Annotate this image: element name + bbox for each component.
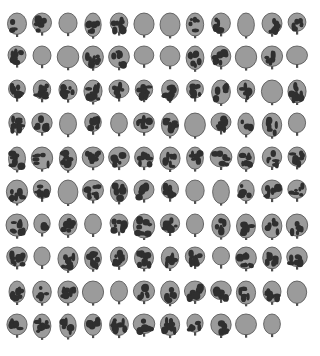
- leaf-icon: [183, 310, 207, 342]
- leaf-icon: [234, 42, 258, 74]
- leaf-icon: [30, 109, 54, 141]
- leaf-icon: [30, 42, 54, 74]
- leaf-icon: [234, 176, 258, 208]
- leaf-icon: [285, 9, 309, 41]
- leaf-cell: [55, 8, 81, 42]
- leaf-cell: [157, 310, 183, 344]
- leaf-cell: [183, 75, 209, 109]
- leaf-cell: [30, 176, 56, 210]
- leaf-icon: [260, 277, 284, 309]
- leaf-icon: [30, 9, 54, 41]
- leaf-cell: [157, 276, 183, 310]
- leaf-icon: [30, 243, 54, 275]
- leaf-icon: [209, 143, 233, 175]
- leaf-icon: [158, 243, 182, 275]
- leaf-icon: [285, 243, 309, 275]
- leaf-cell: [285, 75, 311, 109]
- leaf-icon: [56, 143, 80, 175]
- leaf-cell: [132, 310, 158, 344]
- leaf-icon: [234, 76, 258, 108]
- leaf-icon: [30, 277, 54, 309]
- leaf-cell: [157, 209, 183, 243]
- leaf-icon: [209, 243, 233, 275]
- leaf-cell: [30, 209, 56, 243]
- leaf-cell: [285, 8, 311, 42]
- leaf-cell: [4, 209, 30, 243]
- leaf-cell: [132, 142, 158, 176]
- leaf-cell: [81, 75, 107, 109]
- leaf-icon: [158, 42, 182, 74]
- leaf-icon: [107, 243, 131, 275]
- leaf-icon: [183, 243, 207, 275]
- leaf-icon: [81, 143, 105, 175]
- leaf-icon: [234, 210, 258, 242]
- leaf-cell: [285, 276, 311, 310]
- leaf-cell: [234, 8, 260, 42]
- leaf-cell: [4, 109, 30, 143]
- leaf-cell: [234, 209, 260, 243]
- leaf-icon: [81, 76, 105, 108]
- leaf-icon: [285, 277, 309, 309]
- leaf-cell: [234, 176, 260, 210]
- leaf-cell: [4, 243, 30, 277]
- leaf-cell: [208, 42, 234, 76]
- leaf-cell: [55, 310, 81, 344]
- leaf-icon: [209, 42, 233, 74]
- leaf-icon: [81, 243, 105, 275]
- leaf-cell: [30, 142, 56, 176]
- leaf-cell: [106, 8, 132, 42]
- leaf-cell: [285, 109, 311, 143]
- leaf-cell: [259, 75, 285, 109]
- leaf-icon: [56, 76, 80, 108]
- leaf-icon: [285, 109, 309, 141]
- leaf-cell: [208, 8, 234, 42]
- leaf-cell: [183, 276, 209, 310]
- leaf-icon: [260, 76, 284, 108]
- leaf-icon: [107, 310, 131, 342]
- leaf-icon: [285, 143, 309, 175]
- leaf-cell: [106, 209, 132, 243]
- leaf-icon: [107, 176, 131, 208]
- leaf-icon: [260, 176, 284, 208]
- leaf-cell: [183, 243, 209, 277]
- leaf-cell: [157, 8, 183, 42]
- leaf-icon: [81, 210, 105, 242]
- leaf-icon: [158, 9, 182, 41]
- leaf-icon: [132, 109, 156, 141]
- leaf-cell: [259, 243, 285, 277]
- leaf-icon: [132, 310, 156, 342]
- leaf-cell: [81, 176, 107, 210]
- leaf-icon: [260, 9, 284, 41]
- leaf-icon: [260, 310, 284, 342]
- leaf-icon: [30, 76, 54, 108]
- leaf-icon: [285, 76, 309, 108]
- leaf-cell: [30, 109, 56, 143]
- leaf-cell: [208, 109, 234, 143]
- leaf-cell: [208, 276, 234, 310]
- leaf-icon: [56, 277, 80, 309]
- leaf-cell: [234, 42, 260, 76]
- leaf-icon: [56, 9, 80, 41]
- leaf-icon: [234, 277, 258, 309]
- leaf-cell: [132, 42, 158, 76]
- leaf-icon: [5, 109, 29, 141]
- leaf-grid: [4, 8, 318, 343]
- leaf-icon: [234, 243, 258, 275]
- leaf-cell: [30, 276, 56, 310]
- leaf-icon: [30, 176, 54, 208]
- leaf-icon: [209, 277, 233, 309]
- leaf-cell: [183, 176, 209, 210]
- leaf-icon: [5, 310, 29, 342]
- leaf-cell: [208, 209, 234, 243]
- leaf-cell: [259, 42, 285, 76]
- leaf-cell: [55, 75, 81, 109]
- leaf-icon: [56, 42, 80, 74]
- leaf-cell: [285, 209, 311, 243]
- leaf-cell: [285, 176, 311, 210]
- leaf-icon: [209, 310, 233, 342]
- leaf-cell: [157, 176, 183, 210]
- leaf-cell: [30, 8, 56, 42]
- leaf-cell: [259, 310, 285, 344]
- leaf-cell: [157, 142, 183, 176]
- leaf-cell: [259, 209, 285, 243]
